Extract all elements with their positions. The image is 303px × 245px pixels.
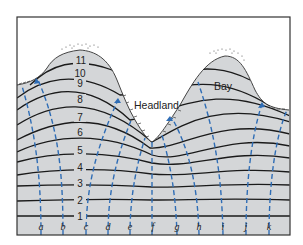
crest-label-5: 5: [77, 145, 83, 156]
bay-label: Bay: [214, 80, 233, 92]
orthogonal-label-g: g: [175, 221, 180, 232]
wave-refraction-diagram: 1 2 3 4 5 6 7 8 9 10 11 a b c d e f g h …: [0, 0, 303, 245]
crest-label-6: 6: [77, 127, 83, 138]
orthogonal-label-k: k: [267, 221, 272, 232]
orthogonal-label-a: a: [39, 221, 44, 232]
orthogonal-label-h: h: [197, 221, 202, 232]
orthogonal-label-e: e: [128, 221, 133, 232]
orthogonal-label-i: i: [222, 221, 225, 232]
crest-label-4: 4: [77, 162, 83, 173]
orthogonal-label-b: b: [61, 221, 66, 232]
crest-label-2: 2: [77, 195, 83, 206]
crest-label-1: 1: [77, 211, 83, 222]
crest-label-7: 7: [77, 112, 83, 123]
crest-label-11: 11: [76, 55, 87, 66]
crest-label-10: 10: [74, 68, 86, 79]
crest-label-8: 8: [77, 94, 83, 105]
crest-label-3: 3: [77, 178, 83, 189]
orthogonal-label-c: c: [84, 221, 89, 232]
crest-label-9: 9: [77, 78, 83, 89]
headland-label: Headland: [134, 99, 179, 111]
